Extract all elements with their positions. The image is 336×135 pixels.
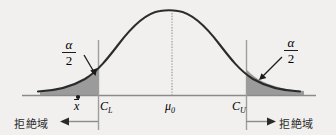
two-symbol-left: 2: [64, 54, 75, 67]
x-bar-text: x: [74, 99, 79, 113]
rejection-region-left-label: 拒絶域: [14, 115, 49, 131]
left-rejection-arrowhead-icon: [60, 118, 69, 126]
right-rejection-arrowhead-icon: [267, 118, 276, 126]
critical-lower-subscript: L: [108, 106, 112, 115]
left-alpha-pointer-arrow: [84, 55, 94, 72]
critical-upper-letter: C: [232, 99, 240, 113]
critical-upper-label: CU: [232, 99, 246, 115]
right-alpha-pointer-arrow: [263, 57, 282, 76]
alpha-symbol-left: α: [64, 38, 75, 51]
alpha-over-two-left: α 2: [62, 38, 76, 67]
figure-canvas: α 2 α 2 x CL μ0 CU 拒絶域 拒絶域: [0, 0, 336, 135]
critical-upper-subscript: U: [240, 106, 246, 115]
two-symbol-right: 2: [286, 52, 297, 65]
alpha-symbol-right: α: [286, 36, 297, 49]
mu-zero-subscript: 0: [171, 106, 175, 115]
mu-zero-label: μ0: [165, 99, 175, 115]
rejection-region-right-label: 拒絶域: [279, 115, 314, 131]
critical-lower-label: CL: [100, 99, 112, 115]
critical-lower-letter: C: [100, 99, 108, 113]
x-bar-label: x: [74, 99, 79, 114]
alpha-over-two-right: α 2: [284, 36, 298, 65]
